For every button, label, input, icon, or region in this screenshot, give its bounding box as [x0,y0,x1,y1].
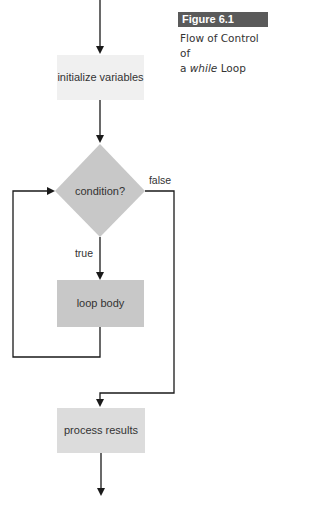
false-label: false [149,174,171,186]
process-results-label: process results [64,424,138,436]
caption-line-1: Flow of Control of [180,32,259,59]
figure-caption: Flow of Control of a while Loop [180,31,268,76]
loop-body-node: loop body [57,280,144,327]
process-results-node: process results [57,408,145,453]
caption-prefix: a [180,62,190,74]
condition-label: condition? [75,185,125,197]
true-label: true [75,247,93,259]
init-node: initialize variables [57,55,144,100]
caption-suffix: Loop [217,62,246,74]
init-label: initialize variables [57,71,144,83]
figure-number-badge: Figure 6.1 [178,12,268,27]
condition-node: condition? [55,144,145,237]
loop-body-label: loop body [77,297,125,309]
caption-keyword: while [190,62,218,74]
